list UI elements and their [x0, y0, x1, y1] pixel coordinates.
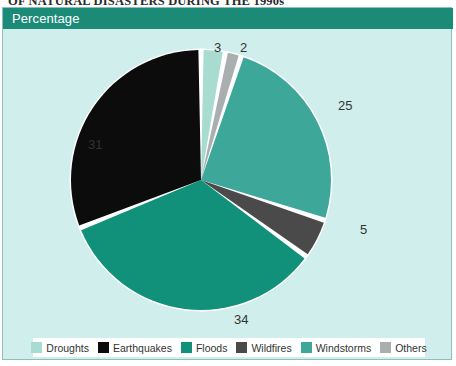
- chart-header-band: Percentage: [3, 8, 453, 29]
- legend-item-earthquakes[interactable]: Earthquakes: [98, 342, 172, 354]
- legend-item-windstorms[interactable]: Windstorms: [301, 342, 371, 354]
- legend-swatch-floods: [181, 342, 192, 353]
- pie-slice-group: [70, 49, 333, 312]
- legend-label-others: Others: [395, 342, 427, 354]
- legend-item-floods[interactable]: Floods: [181, 342, 228, 354]
- legend-label-droughts: Droughts: [46, 342, 89, 354]
- legend-item-droughts[interactable]: Droughts: [31, 342, 89, 354]
- plot-area: 322553431: [8, 32, 448, 332]
- pie-value-label-windstorms: 25: [338, 98, 352, 113]
- pie-value-label-floods: 34: [234, 312, 248, 327]
- chart-legend: DroughtsEarthquakesFloodsWildfiresWindst…: [33, 338, 425, 357]
- legend-label-windstorms: Windstorms: [316, 342, 371, 354]
- pie-value-label-wildfires: 5: [360, 222, 367, 237]
- legend-label-wildfires: Wildfires: [251, 342, 291, 354]
- legend-label-floods: Floods: [196, 342, 228, 354]
- legend-swatch-droughts: [31, 342, 42, 353]
- pie-value-label-others: 2: [240, 40, 247, 55]
- pie-value-label-droughts: 3: [214, 40, 221, 55]
- pie-value-label-earthquakes: 31: [88, 137, 102, 152]
- legend-swatch-wildfires: [236, 342, 247, 353]
- legend-swatch-windstorms: [301, 342, 312, 353]
- legend-label-earthquakes: Earthquakes: [113, 342, 172, 354]
- pie-chart: 322553431: [8, 32, 448, 332]
- legend-item-wildfires[interactable]: Wildfires: [236, 342, 291, 354]
- legend-item-others[interactable]: Others: [380, 342, 427, 354]
- legend-swatch-earthquakes: [98, 342, 109, 353]
- pie-chart-svg: [8, 32, 448, 332]
- legend-swatch-others: [380, 342, 391, 353]
- chart-header-label: Percentage: [12, 11, 80, 26]
- figure-panel: Percentage 322553431 DroughtsEarthquakes…: [2, 7, 452, 360]
